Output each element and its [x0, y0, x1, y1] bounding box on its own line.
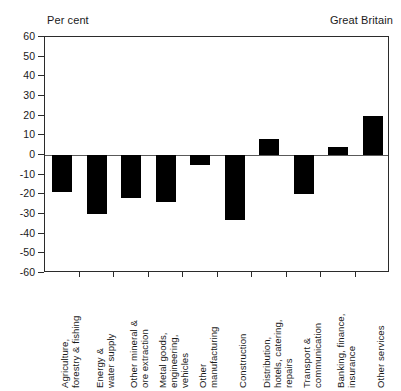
chart-container: Per cent Great Britain 6050403020100-10-… [0, 0, 401, 391]
x-axis-tick-mark [320, 272, 321, 277]
x-axis-category-label: Other services [375, 325, 386, 388]
x-axis-category-label: Other mineral & [128, 320, 139, 388]
x-axis-category-label: hotels, catering, [272, 319, 283, 388]
y-axis-tick-label: 10 [23, 128, 35, 140]
y-axis-tick-label: 40 [23, 69, 35, 81]
x-axis-category-label: engineering, [168, 335, 179, 388]
bar [121, 155, 141, 198]
x-axis-category-label: Agriculture, [59, 339, 70, 388]
bar [328, 147, 348, 155]
x-axis-category-label: Distribution, [261, 337, 272, 388]
x-axis-category-label: Other [197, 364, 208, 388]
bars-layer [45, 37, 388, 271]
y-axis-tick-label: 50 [23, 50, 35, 62]
x-axis-tick-mark [113, 272, 114, 277]
y-axis-tick-label: -50 [20, 246, 35, 258]
x-axis-category-label: communication [312, 323, 323, 388]
bar [259, 139, 279, 155]
x-axis-category-label: forestry & fishing [70, 316, 81, 388]
region-annotation-label: Great Britain [330, 14, 393, 26]
x-axis-tick-mark [182, 272, 183, 277]
bar [52, 155, 72, 192]
bar [294, 155, 314, 194]
bar [363, 116, 383, 155]
x-axis-category-label: manufacturing [208, 327, 219, 388]
y-axis-tick-label: -40 [20, 227, 35, 239]
x-axis-category-label: Construction [237, 334, 248, 388]
y-axis: 6050403020100-10-20-30-40-50-60 [0, 30, 44, 280]
y-axis-tick-label: -30 [20, 207, 35, 219]
x-axis-category-label: Transport & [301, 338, 312, 388]
x-axis-category-label: vehicles [179, 353, 190, 388]
x-axis-tick-mark [217, 272, 218, 277]
chart-header: Per cent Great Britain [0, 14, 401, 32]
y-axis-tick-label: -60 [20, 266, 35, 278]
x-axis-category-label: insurance [346, 346, 357, 388]
x-axis-category-labels: Agriculture,forestry & fishingEnergy &wa… [0, 278, 401, 391]
bar [190, 155, 210, 165]
y-axis-tick-label: -10 [20, 168, 35, 180]
y-axis-tick-mark [38, 272, 44, 273]
y-axis-tick-label: 20 [23, 109, 35, 121]
x-axis-category-label: Metal goods, [157, 332, 168, 388]
bar [87, 155, 107, 214]
y-axis-tick-label: 60 [23, 30, 35, 42]
y-axis-tick-label: 30 [23, 89, 35, 101]
x-axis-tick-mark [286, 272, 287, 277]
y-axis-tick-label: 0 [29, 148, 35, 160]
plot-area [44, 36, 389, 272]
x-axis-category-label: Energy & [94, 348, 105, 388]
y-axis-unit-label: Per cent [47, 14, 89, 26]
x-axis-category-label: Banking, finance, [335, 314, 346, 388]
x-axis-tick-mark [79, 272, 80, 277]
x-axis-tick-mark [251, 272, 252, 277]
x-axis-category-label: repairs [283, 358, 294, 388]
x-axis-tick-mark [148, 272, 149, 277]
y-axis-tick-label: -20 [20, 187, 35, 199]
x-axis-category-label: water supply [105, 334, 116, 388]
x-axis-tick-mark [355, 272, 356, 277]
bar [225, 155, 245, 220]
bar [156, 155, 176, 202]
x-axis-category-label: ore extraction [139, 329, 150, 388]
